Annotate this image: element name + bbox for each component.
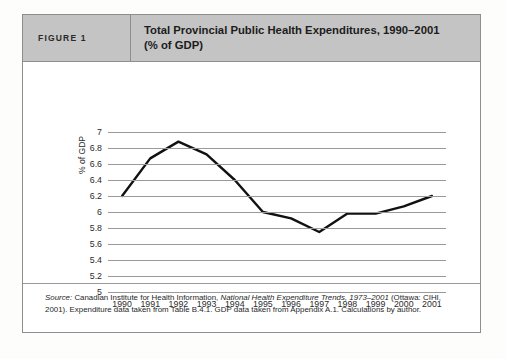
y-axis-tick-label: 7 [97,127,102,137]
figure-title-line-1: Total Provincial Public Health Expenditu… [144,23,470,38]
source-part-2: (Ottawa: [389,293,421,302]
page-background: FIGURE 1 Total Provincial Public Health … [0,0,507,359]
plot-area: 76.86.66.46.265.85.65.45.251990199119921… [108,132,446,292]
y-axis-tick-label: 6.8 [90,143,102,153]
gridline [108,164,446,165]
source-label: Source: [45,293,72,302]
gridline [108,276,446,277]
gridline [108,196,446,197]
gridline [108,212,446,213]
y-axis-tick-label: 6.6 [90,159,102,169]
y-axis-tick-label: 5.6 [90,239,102,249]
gridline [108,148,446,149]
gridline [108,228,446,229]
publication-title: National Health Expenditure Trends, 1973… [220,293,388,302]
figure-frame: FIGURE 1 Total Provincial Public Health … [22,14,481,333]
figure-number-label: FIGURE 1 [23,15,131,61]
gridline [108,180,446,181]
line-chart: % of GDP 76.86.66.46.265.85.65.45.251990… [23,62,480,284]
y-axis-title: % of GDP [77,120,87,190]
y-axis-tick-label: 5.2 [90,271,102,281]
gridline [108,132,446,133]
figure-header: FIGURE 1 Total Provincial Public Health … [23,15,480,62]
figure-footnote: Source: Canadian Institute for Health In… [23,283,480,332]
series-polyline [122,142,432,232]
y-axis-tick-label: 6.2 [90,191,102,201]
y-axis-tick-label: 5.4 [90,255,102,265]
figure-title-line-2: (% of GDP) [144,38,470,53]
y-axis-tick-label: 5.8 [90,223,102,233]
y-axis-tick-label: 6.4 [90,175,102,185]
gridline [108,244,446,245]
figure-body: % of GDP 76.86.66.46.265.85.65.45.251990… [23,62,480,284]
figure-title: Total Provincial Public Health Expenditu… [131,15,480,61]
source-note: Source: Canadian Institute for Health In… [45,292,458,315]
y-axis-tick-label: 6 [97,207,102,217]
gridline [108,260,446,261]
source-part-1: Canadian Institute for Health Informatio… [72,293,220,302]
